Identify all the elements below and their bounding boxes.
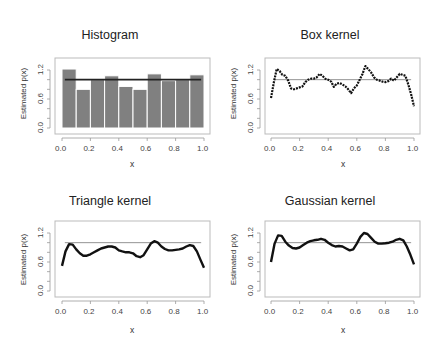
histogram-bar — [105, 76, 119, 128]
histogram-bar — [90, 80, 104, 128]
density-curve — [271, 66, 414, 106]
x-tick-label: 0.6 — [350, 307, 361, 316]
y-tick-label: 0.6 — [36, 252, 45, 272]
plot-area — [0, 171, 220, 342]
x-tick-label: 0.4 — [321, 144, 332, 153]
y-tick-label: 0.0 — [246, 281, 255, 301]
histogram-bar — [62, 69, 76, 128]
box-kernel-panel: Box kernel Estimated p(x) x 0.00.20.40.6… — [220, 0, 440, 171]
plot-area — [0, 0, 220, 171]
histogram-bar — [190, 75, 204, 128]
x-tick-label: 0.4 — [112, 144, 123, 153]
plot-frame — [265, 221, 420, 297]
y-tick-label: 1.2 — [36, 223, 45, 243]
x-tick-label: 0.6 — [350, 144, 361, 153]
x-tick-label: 0.0 — [264, 307, 275, 316]
x-tick-label: 1.0 — [407, 307, 418, 316]
x-tick-label: 0.2 — [83, 144, 94, 153]
x-tick-label: 1.0 — [197, 307, 208, 316]
x-tick-label: 0.0 — [264, 144, 275, 153]
y-tick-label: 1.2 — [36, 60, 45, 80]
histogram-bar — [133, 89, 147, 128]
x-tick-label: 0.8 — [378, 144, 389, 153]
x-tick-label: 0.0 — [55, 307, 66, 316]
x-tick-label: 1.0 — [407, 144, 418, 153]
y-tick-label: 0.0 — [36, 118, 45, 138]
histogram-bar — [76, 89, 90, 128]
y-tick-label: 0.6 — [246, 89, 255, 109]
x-tick-label: 0.4 — [321, 307, 332, 316]
histogram-bar — [147, 74, 161, 128]
x-tick-label: 0.8 — [378, 307, 389, 316]
density-curve — [62, 241, 204, 268]
x-tick-label: 0.2 — [293, 307, 304, 316]
x-tick-label: 0.8 — [169, 144, 180, 153]
x-tick-label: 0.8 — [169, 307, 180, 316]
x-tick-label: 0.6 — [140, 144, 151, 153]
histogram-bar — [119, 86, 133, 128]
x-tick-label: 0.6 — [140, 307, 151, 316]
histogram-bar — [176, 80, 190, 128]
y-tick-label: 0.6 — [36, 89, 45, 109]
density-curve — [271, 233, 414, 264]
plot-frame — [265, 58, 420, 134]
histogram-bar — [161, 81, 175, 128]
histogram-panel: Histogram Estimated p(x) x 0.00.20.40.60… — [0, 0, 220, 171]
y-tick-label: 1.2 — [246, 60, 255, 80]
x-tick-label: 0.2 — [83, 307, 94, 316]
y-tick-label: 0.0 — [36, 281, 45, 301]
y-tick-label: 1.2 — [246, 223, 255, 243]
x-tick-label: 1.0 — [197, 144, 208, 153]
y-tick-label: 0.6 — [246, 252, 255, 272]
x-tick-label: 0.0 — [55, 144, 66, 153]
y-tick-label: 0.0 — [246, 118, 255, 138]
triangle-kernel-panel: Triangle kernel Estimated p(x) x 0.00.20… — [0, 171, 220, 342]
x-tick-label: 0.2 — [293, 144, 304, 153]
x-tick-label: 0.4 — [112, 307, 123, 316]
plot-frame — [55, 221, 210, 297]
gaussian-kernel-panel: Gaussian kernel Estimated p(x) x 0.00.20… — [220, 171, 440, 342]
